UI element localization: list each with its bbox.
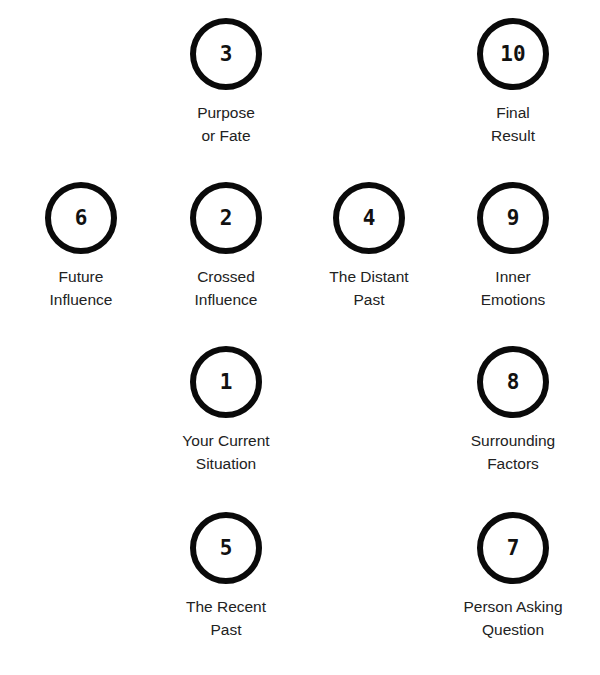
circle-icon: 8: [477, 346, 549, 418]
label-line-1: Future: [11, 265, 151, 288]
label-line-1: Inner: [443, 265, 583, 288]
position-label: FutureInfluence: [11, 265, 151, 311]
label-line-1: Crossed: [156, 265, 296, 288]
circle-icon: 4: [333, 182, 405, 254]
circle-icon: 1: [190, 346, 262, 418]
position-3: 3 Purposeor Fate: [156, 18, 296, 147]
position-6: 6 FutureInfluence: [11, 182, 151, 311]
label-line-2: Situation: [156, 452, 296, 475]
label-line-2: Past: [156, 618, 296, 641]
circle-icon: 2: [190, 182, 262, 254]
label-line-2: Question: [443, 618, 583, 641]
position-number: 10: [500, 42, 525, 66]
position-10: 10 FinalResult: [443, 18, 583, 147]
position-8: 8 SurroundingFactors: [443, 346, 583, 475]
position-7: 7 Person AskingQuestion: [443, 512, 583, 641]
label-line-1: Surrounding: [443, 429, 583, 452]
label-line-2: Past: [299, 288, 439, 311]
position-number: 3: [220, 42, 233, 66]
label-line-1: The Recent: [156, 595, 296, 618]
label-line-2: Emotions: [443, 288, 583, 311]
label-line-1: Person Asking: [443, 595, 583, 618]
circle-icon: 3: [190, 18, 262, 90]
position-1: 1 Your CurrentSituation: [156, 346, 296, 475]
label-line-1: Your Current: [156, 429, 296, 452]
position-label: Your CurrentSituation: [156, 429, 296, 475]
position-number: 1: [220, 370, 233, 394]
position-label: Person AskingQuestion: [443, 595, 583, 641]
label-line-1: The Distant: [299, 265, 439, 288]
position-4: 4 The DistantPast: [299, 182, 439, 311]
position-label: Purposeor Fate: [156, 101, 296, 147]
position-number: 9: [507, 206, 520, 230]
position-number: 2: [220, 206, 233, 230]
label-line-2: Influence: [156, 288, 296, 311]
label-line-2: Result: [443, 124, 583, 147]
circle-icon: 7: [477, 512, 549, 584]
position-number: 6: [75, 206, 88, 230]
position-label: SurroundingFactors: [443, 429, 583, 475]
position-label: FinalResult: [443, 101, 583, 147]
position-label: InnerEmotions: [443, 265, 583, 311]
position-label: The DistantPast: [299, 265, 439, 311]
label-line-1: Final: [443, 101, 583, 124]
position-number: 5: [220, 536, 233, 560]
circle-icon: 5: [190, 512, 262, 584]
position-number: 7: [507, 536, 520, 560]
label-line-2: Factors: [443, 452, 583, 475]
label-line-2: Influence: [11, 288, 151, 311]
position-number: 4: [363, 206, 376, 230]
position-label: CrossedInfluence: [156, 265, 296, 311]
circle-icon: 6: [45, 182, 117, 254]
circle-icon: 9: [477, 182, 549, 254]
label-line-2: or Fate: [156, 124, 296, 147]
position-9: 9 InnerEmotions: [443, 182, 583, 311]
position-2: 2 CrossedInfluence: [156, 182, 296, 311]
position-label: The RecentPast: [156, 595, 296, 641]
position-5: 5 The RecentPast: [156, 512, 296, 641]
circle-icon: 10: [477, 18, 549, 90]
label-line-1: Purpose: [156, 101, 296, 124]
position-number: 8: [507, 370, 520, 394]
